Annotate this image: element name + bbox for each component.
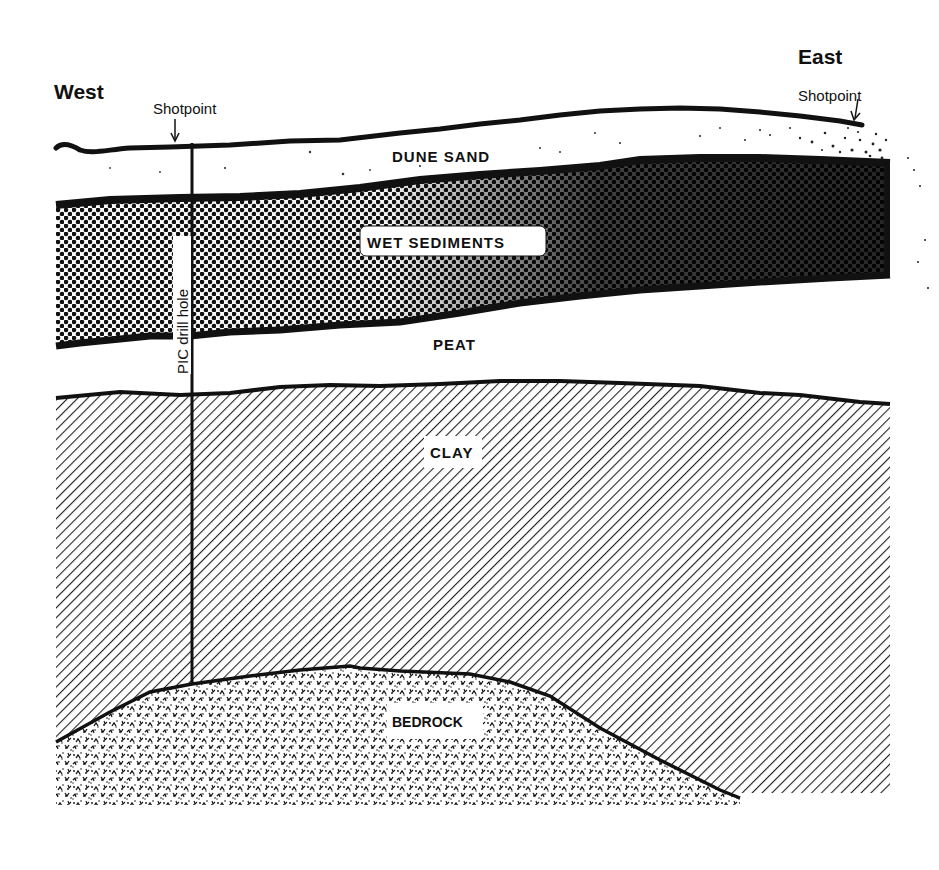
wet-sediments-label: WET SEDIMENTS [367, 234, 505, 251]
dune-sand-label: DUNE SAND [392, 148, 490, 165]
clay-label: CLAY [430, 444, 473, 461]
west-shotpoint-label: Shotpoint [153, 100, 217, 117]
cross-section-diagram: PIC drill hole West East Shotpoint Shotp… [0, 0, 939, 870]
east-shotpoint-label: Shotpoint [798, 87, 862, 104]
east-label: East [798, 45, 842, 68]
bedrock-label: BEDROCK [392, 714, 463, 730]
peat-label: PEAT [433, 336, 476, 353]
west-label: West [54, 80, 104, 103]
drill-hole-label: PIC drill hole [174, 289, 191, 374]
